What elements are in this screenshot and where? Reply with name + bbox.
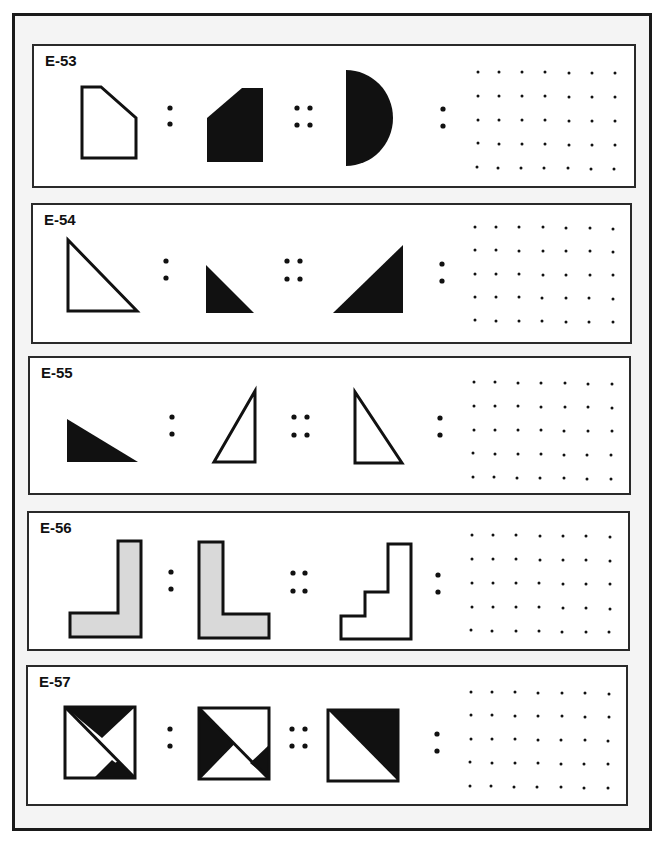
- answer-dot-grid[interactable]: [470, 534, 612, 634]
- proportion-symbol-icon: [284, 258, 302, 281]
- ratio-symbol-icon: [437, 415, 442, 437]
- figure-c-outline-triangle-icon: [355, 392, 402, 463]
- figure-b-gray-l-shape-icon: [199, 542, 269, 638]
- figure-a-filled-triangle-icon: [67, 419, 138, 462]
- ratio-symbol-icon: [439, 261, 444, 283]
- problem-e-57: E-57: [26, 665, 628, 806]
- figure-b-split-square-icon: [199, 708, 269, 779]
- ratio-symbol-icon: [167, 105, 172, 126]
- figure-b-outline-triangle-icon: [214, 391, 255, 462]
- ratio-symbol-icon: [169, 414, 174, 436]
- proportion-symbol-icon: [291, 414, 309, 437]
- figure-b-filled-pentagon-icon: [207, 88, 263, 162]
- ratio-symbol-icon: [434, 731, 439, 753]
- figure-c-filled-triangle-icon: [333, 245, 403, 313]
- figure-c-half-disc-icon: [346, 70, 393, 166]
- proportion-symbol-icon: [294, 105, 312, 127]
- figure-a-outline-pentagon-icon: [82, 87, 136, 158]
- answer-dot-grid[interactable]: [474, 226, 615, 324]
- answer-dot-grid[interactable]: [469, 691, 611, 790]
- figure-b-filled-triangle-icon: [206, 265, 254, 313]
- proportion-symbol-icon: [290, 570, 307, 593]
- problem-e-54: E-54: [31, 203, 632, 344]
- problem-e-55: E-55: [28, 356, 631, 495]
- problem-e-53: E-53: [32, 44, 636, 188]
- figure-c-diagonal-square-icon: [328, 710, 398, 781]
- figure-a-gray-l-shape-icon: [70, 541, 141, 637]
- figure-a-outline-triangle-icon: [68, 240, 137, 311]
- answer-dot-grid[interactable]: [472, 381, 614, 481]
- problem-e-56: E-56: [27, 511, 630, 651]
- ratio-symbol-icon: [435, 572, 440, 594]
- ratio-symbol-icon: [168, 569, 173, 591]
- ratio-symbol-icon: [167, 726, 172, 748]
- figure-c-outline-staircase-icon: [341, 544, 411, 639]
- answer-dot-grid[interactable]: [476, 71, 617, 171]
- ratio-symbol-icon: [163, 258, 168, 280]
- figure-a-split-square-icon: [65, 707, 135, 778]
- ratio-symbol-icon: [440, 106, 445, 128]
- proportion-symbol-icon: [289, 726, 307, 748]
